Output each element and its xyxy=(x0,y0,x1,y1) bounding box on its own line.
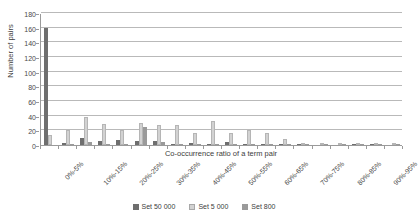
bar-group xyxy=(367,14,385,145)
y-tick-label: 100 xyxy=(24,69,36,76)
y-tick-mark xyxy=(36,117,39,118)
bar xyxy=(265,133,269,145)
bar xyxy=(215,144,219,145)
bar-group xyxy=(186,14,204,145)
bar xyxy=(143,127,147,145)
bar-group xyxy=(276,14,294,145)
bar-group xyxy=(240,14,258,145)
y-tick-mark xyxy=(36,87,39,88)
bar-group xyxy=(168,14,186,145)
plot-area xyxy=(40,14,402,146)
bar xyxy=(251,144,255,145)
y-tick-mark xyxy=(36,29,39,30)
bar xyxy=(269,144,273,145)
y-tick-label: 40 xyxy=(28,113,36,120)
x-tick-label: 40%-45% xyxy=(211,160,238,187)
y-axis-tick-labels: 020406080100120140160180 xyxy=(0,14,36,146)
x-tick-label: 80%-85% xyxy=(356,160,383,187)
y-tick-label: 180 xyxy=(24,11,36,18)
y-tick-label: 140 xyxy=(24,40,36,47)
x-tick-label: 20%-25% xyxy=(138,160,165,187)
bar xyxy=(124,144,128,145)
legend-label: Set 50 000 xyxy=(142,203,176,211)
bar xyxy=(197,144,201,145)
x-tick-mark xyxy=(402,146,403,149)
bar xyxy=(44,28,48,145)
bar-group xyxy=(95,14,113,145)
legend-swatch-icon xyxy=(133,204,139,210)
bar xyxy=(342,144,346,145)
y-tick-mark xyxy=(36,43,39,44)
bar xyxy=(70,144,74,145)
gridline xyxy=(41,12,402,13)
y-tick-label: 120 xyxy=(24,55,36,62)
legend-item[interactable]: Set 800 xyxy=(242,203,275,211)
y-tick-label: 160 xyxy=(24,25,36,32)
bar-group xyxy=(41,14,59,145)
y-tick-mark xyxy=(36,102,39,103)
bar-group xyxy=(222,14,240,145)
bar-group xyxy=(331,14,349,145)
bar xyxy=(175,125,179,145)
bar xyxy=(84,117,88,145)
bar-group xyxy=(349,14,367,145)
bar xyxy=(161,142,165,145)
x-tick-label: 60%-65% xyxy=(283,160,310,187)
x-tick-label: 90%-95% xyxy=(392,160,419,187)
bar-group xyxy=(59,14,77,145)
bar xyxy=(211,121,215,145)
legend-label: Set 5 000 xyxy=(198,203,228,211)
x-axis-tick-labels: 0%-5%10%-15%20%-25%30%-35%40%-45%50%-55%… xyxy=(40,160,402,194)
bar-group xyxy=(150,14,168,145)
legend-swatch-icon xyxy=(242,204,248,210)
y-tick-mark xyxy=(36,73,39,74)
bar xyxy=(233,144,237,145)
x-axis-title: Co-occurrence ratio of a term pair xyxy=(40,149,402,158)
chart-legend: Set 50 000Set 5 000Set 800 xyxy=(0,203,408,211)
bar xyxy=(287,144,291,145)
bar xyxy=(102,124,106,145)
legend-swatch-icon xyxy=(189,204,195,210)
y-tick-label: 60 xyxy=(28,99,36,106)
x-tick-label: 70%-75% xyxy=(319,160,346,187)
bar-group xyxy=(113,14,131,145)
bar-group xyxy=(132,14,150,145)
y-tick-mark xyxy=(36,14,39,15)
bar-group xyxy=(77,14,95,145)
y-tick-label: 80 xyxy=(28,84,36,91)
legend-item[interactable]: Set 5 000 xyxy=(189,203,228,211)
y-tick-mark xyxy=(36,131,39,132)
bar-group xyxy=(294,14,312,145)
bar xyxy=(305,144,309,145)
x-tick-label: 50%-55% xyxy=(247,160,274,187)
bar-group xyxy=(204,14,222,145)
bar xyxy=(378,144,382,145)
legend-item[interactable]: Set 50 000 xyxy=(133,203,176,211)
bar xyxy=(88,142,92,145)
x-tick-label: 30%-35% xyxy=(175,160,202,187)
bar xyxy=(396,144,400,145)
bar xyxy=(360,144,364,145)
x-tick-label: 0%-5% xyxy=(64,160,86,182)
bar xyxy=(324,144,328,145)
y-tick-mark xyxy=(36,58,39,59)
legend-label: Set 800 xyxy=(251,203,275,211)
bar-group xyxy=(313,14,331,145)
x-tick-label: 10%-15% xyxy=(102,160,129,187)
y-tick-mark xyxy=(36,146,39,147)
y-tick-label: 20 xyxy=(28,128,36,135)
bar xyxy=(179,144,183,145)
bar xyxy=(106,144,110,145)
bar xyxy=(48,135,52,145)
bar-group xyxy=(385,14,403,145)
bar-group xyxy=(258,14,276,145)
